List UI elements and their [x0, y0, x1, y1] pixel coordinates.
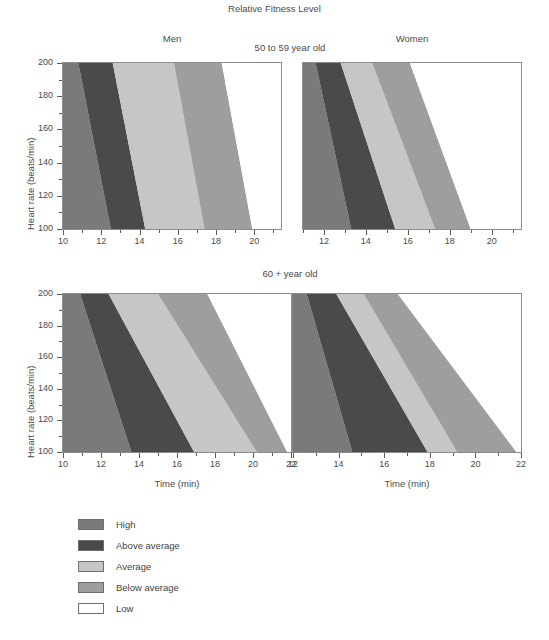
y-tick-label: 180: [26, 320, 53, 330]
x-tick: [339, 453, 340, 458]
y-tick: [59, 341, 62, 342]
y-tick-label: 160: [26, 123, 53, 133]
x-tick: [234, 453, 235, 456]
x-tick: [291, 453, 292, 458]
y-tick: [57, 326, 62, 327]
x-tick: [407, 453, 408, 456]
x-tick: [272, 453, 273, 456]
legend-item-below-average[interactable]: Below average: [78, 577, 180, 598]
x-tick: [101, 453, 102, 458]
x-tick: [63, 230, 64, 235]
legend-label: Low: [116, 603, 133, 614]
x-tick-label: 20: [478, 236, 506, 246]
legend-label: Average: [116, 561, 151, 572]
y-tick: [57, 357, 62, 358]
x-tick: [408, 230, 409, 235]
y-tick: [59, 310, 62, 311]
x-tick: [521, 453, 522, 458]
x-tick: [293, 453, 294, 458]
x-tick: [513, 230, 514, 233]
x-tick-label: 20: [240, 236, 268, 246]
y-tick: [59, 436, 62, 437]
x-tick-label: 12: [279, 459, 307, 469]
x-tick: [475, 453, 476, 458]
x-tick: [361, 453, 362, 456]
y-tick: [57, 229, 62, 230]
x-tick-label: 14: [125, 459, 153, 469]
x-tick-label: 18: [436, 236, 464, 246]
x-tick: [450, 230, 451, 235]
legend-item-high[interactable]: High: [78, 514, 180, 535]
x-tick: [387, 230, 388, 233]
x-tick: [197, 230, 198, 233]
y-tick-label: 120: [26, 190, 53, 200]
legend-swatch: [78, 603, 104, 614]
x-tick: [253, 453, 254, 458]
y-tick: [57, 129, 62, 130]
x-tick: [101, 230, 102, 235]
x-tick: [316, 453, 317, 456]
x-tick: [429, 230, 430, 233]
y-tick: [59, 179, 62, 180]
legend-label: High: [116, 519, 136, 530]
legend-swatch: [78, 561, 104, 572]
y-tick: [57, 96, 62, 97]
y-tick-label: 140: [26, 157, 53, 167]
x-tick: [178, 230, 179, 235]
y-tick-label: 120: [26, 414, 53, 424]
x-tick-label: 16: [394, 236, 422, 246]
y-tick-label: 100: [26, 223, 53, 233]
x-tick: [235, 230, 236, 233]
x-tick: [324, 230, 325, 235]
x-tick-label: 16: [164, 236, 192, 246]
x-tick-label: 16: [163, 459, 191, 469]
x-tick-label: 20: [461, 459, 489, 469]
y-tick-label: 200: [26, 288, 53, 298]
y-tick: [57, 294, 62, 295]
legend-label: Below average: [116, 582, 179, 593]
legend-item-above-average[interactable]: Above average: [78, 535, 180, 556]
y-tick: [57, 196, 62, 197]
x-tick: [453, 453, 454, 456]
x-tick-label: 12: [87, 236, 115, 246]
x-tick: [82, 230, 83, 233]
y-tick-label: 200: [26, 57, 53, 67]
x-tick-label: 14: [125, 236, 153, 246]
y-tick: [59, 373, 62, 374]
legend: HighAbove averageAverageBelow averageLow: [78, 514, 180, 619]
x-tick: [273, 230, 274, 233]
x-tick-label: 18: [202, 236, 230, 246]
legend-swatch: [78, 540, 104, 551]
y-tick: [59, 405, 62, 406]
x-tick: [63, 453, 64, 458]
y-tick-label: 100: [26, 446, 53, 456]
x-tick-label: 12: [310, 236, 338, 246]
y-tick-label: 140: [26, 383, 53, 393]
x-tick-label: 16: [370, 459, 398, 469]
x-tick: [498, 453, 499, 456]
y-tick: [59, 113, 62, 114]
x-tick-label: 10: [49, 459, 77, 469]
y-tick-label: 160: [26, 351, 53, 361]
x-tick: [139, 453, 140, 458]
x-tick-label: 14: [325, 459, 353, 469]
y-tick: [59, 212, 62, 213]
y-tick: [59, 146, 62, 147]
x-tick-label: 20: [239, 459, 267, 469]
y-tick: [57, 63, 62, 64]
legend-item-low[interactable]: Low: [78, 598, 180, 619]
y-tick: [57, 163, 62, 164]
y-tick: [57, 420, 62, 421]
x-tick: [345, 230, 346, 233]
y-tick-label: 180: [26, 90, 53, 100]
x-tick-label: 18: [416, 459, 444, 469]
legend-item-average[interactable]: Average: [78, 556, 180, 577]
x-tick: [254, 230, 255, 235]
x-tick: [471, 230, 472, 233]
y-tick: [57, 452, 62, 453]
legend-label: Above average: [116, 540, 180, 551]
y-tick: [59, 80, 62, 81]
x-tick: [215, 453, 216, 458]
x-tick-label: 14: [352, 236, 380, 246]
x-tick: [216, 230, 217, 235]
